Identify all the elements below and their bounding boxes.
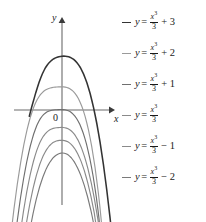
fraction-denominator: 3 <box>151 23 157 32</box>
fraction: x3 3 <box>150 44 159 62</box>
fraction-numerator: x3 <box>150 75 159 84</box>
numerator-exponent: 3 <box>154 165 157 171</box>
numerator-exponent: 3 <box>154 41 157 47</box>
legend-equals: = <box>141 48 147 59</box>
legend-lhs: y <box>135 48 140 59</box>
legend-constant-term: + 1 <box>161 79 175 90</box>
figure-container: y x 0 y = x3 3 + 3 y = x3 <box>0 0 206 222</box>
legend-item-c2[interactable]: y = x3 3 + 2 <box>122 45 175 61</box>
fraction-numerator: x3 <box>150 137 159 146</box>
fraction-numerator: x3 <box>150 168 159 177</box>
fraction-numerator: x3 <box>150 44 159 53</box>
x-axis-label: x <box>114 113 118 124</box>
axes-group <box>14 17 115 205</box>
fraction: x3 3 <box>150 106 159 124</box>
fraction: x3 3 <box>150 75 159 93</box>
legend-equation: y = x3 3 + 1 <box>135 75 175 93</box>
fraction-denominator: 3 <box>151 54 157 63</box>
legend-constant-term: − 1 <box>161 141 175 152</box>
legend-lhs: y <box>135 79 140 90</box>
legend-equals: = <box>141 141 147 152</box>
legend-item-c0[interactable]: y = x3 3 <box>122 107 161 123</box>
legend-dash-icon <box>122 53 131 54</box>
legend-dash-icon <box>122 146 131 147</box>
legend-constant-term: − 2 <box>161 172 175 183</box>
legend-equation: y = x3 3 + 3 <box>135 13 175 31</box>
fraction: x3 3 <box>150 13 159 31</box>
fraction-denominator: 3 <box>151 147 157 156</box>
curve-c-0 <box>22 127 98 222</box>
legend-item-c1[interactable]: y = x3 3 + 1 <box>122 76 175 92</box>
legend-dash-icon <box>122 22 131 23</box>
numerator-exponent: 3 <box>154 72 157 78</box>
legend-lhs: y <box>135 172 140 183</box>
numerator-exponent: 3 <box>154 10 157 16</box>
legend-equals: = <box>141 172 147 183</box>
legend-dash-icon <box>122 115 131 116</box>
legend-equation: y = x3 3 <box>135 106 161 124</box>
fraction-numerator: x3 <box>150 13 159 22</box>
legend-equation: y = x3 3 − 2 <box>135 168 175 186</box>
fraction-numerator: x3 <box>150 106 159 115</box>
legend-equals: = <box>141 110 147 121</box>
fraction-denominator: 3 <box>151 116 157 125</box>
legend-equation: y = x3 3 − 1 <box>135 137 175 155</box>
legend-dash-icon <box>122 177 131 178</box>
legend-equals: = <box>141 79 147 90</box>
fraction: x3 3 <box>150 168 159 186</box>
cubic-family-plot <box>0 0 126 222</box>
legend-lhs: y <box>135 141 140 152</box>
legend-lhs: y <box>135 110 140 121</box>
curves-group <box>12 56 110 222</box>
legend-item-c3[interactable]: y = x3 3 + 3 <box>122 14 175 30</box>
legend: y = x3 3 + 3 y = x3 3 + 2 <box>122 14 206 186</box>
legend-constant-term: + 3 <box>161 17 175 28</box>
legend-lhs: y <box>135 17 140 28</box>
y-axis-arrowhead <box>59 17 66 23</box>
legend-equation: y = x3 3 + 2 <box>135 44 175 62</box>
numerator-exponent: 3 <box>154 103 157 109</box>
legend-item-c-minus1[interactable]: y = x3 3 − 1 <box>122 138 175 154</box>
fraction: x3 3 <box>150 137 159 155</box>
fraction-denominator: 3 <box>151 178 157 187</box>
y-axis-label: y <box>52 12 56 23</box>
legend-constant-term: + 2 <box>161 48 175 59</box>
legend-dash-icon <box>122 84 131 85</box>
origin-label: 0 <box>53 112 58 123</box>
numerator-exponent: 3 <box>154 134 157 140</box>
fraction-denominator: 3 <box>151 85 157 94</box>
legend-item-c-minus2[interactable]: y = x3 3 − 2 <box>122 169 175 185</box>
legend-equals: = <box>141 17 147 28</box>
